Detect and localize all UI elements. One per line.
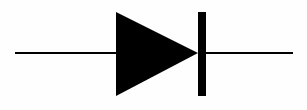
cathode-bar — [198, 12, 206, 96]
anode-triangle — [116, 12, 198, 96]
diagram-canvas: Diode schematic symbol — [0, 0, 307, 110]
diode-icon — [0, 0, 307, 110]
